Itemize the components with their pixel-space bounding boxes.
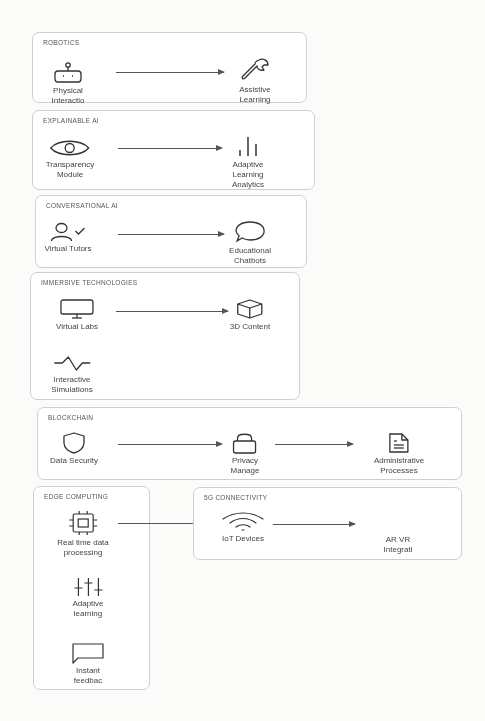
shield-icon <box>62 432 86 454</box>
node-label: Interactive Simulations <box>51 375 92 395</box>
lock-icon <box>231 430 259 454</box>
node-educational-chatbots[interactable]: Educational Chatbots <box>229 220 271 266</box>
node-administrative-processes[interactable]: Administrative Processes <box>374 432 424 476</box>
node-instant-feedback[interactable]: Instant feedbac <box>69 642 107 686</box>
node-label: Virtual Labs <box>56 322 98 332</box>
edge-arrow <box>118 234 224 235</box>
node-label: Data Security <box>50 456 98 466</box>
cube-icon <box>235 298 265 320</box>
node-adaptive-learning[interactable]: Adaptive learning <box>72 577 103 619</box>
wifi-icon <box>220 512 266 532</box>
node-ar-vr-integration[interactable]: AR VR Integrati <box>384 533 413 555</box>
node-assistive-learning[interactable]: Assistive Learning <box>239 57 271 105</box>
node-label: Educational Chatbots <box>229 246 271 266</box>
node-label: 3D Content <box>230 322 270 332</box>
node-label: Transparency Module <box>46 160 95 180</box>
edge-arrow <box>116 311 228 312</box>
edge-arrow <box>116 72 224 73</box>
group-title: EDGE COMPUTING <box>44 493 108 500</box>
node-label: Virtual Tutors <box>45 244 92 254</box>
activity-icon <box>52 355 92 373</box>
edge-arrow <box>273 524 355 525</box>
message-square-icon <box>69 642 107 664</box>
node-label: Adaptive learning <box>72 599 103 619</box>
user-check-icon <box>48 222 88 242</box>
group-title: IMMERSIVE TECHNOLOGIES <box>41 279 137 286</box>
node-label: AR VR Integrati <box>384 535 413 555</box>
node-label: IoT Devices <box>222 534 264 544</box>
wrench-icon <box>239 57 271 83</box>
group-title: BLOCKCHAIN <box>48 414 93 421</box>
node-label: Administrative Processes <box>374 456 424 476</box>
node-virtual-labs[interactable]: Virtual Labs <box>56 298 98 332</box>
node-3d-content[interactable]: 3D Content <box>230 298 270 332</box>
sliders-icon <box>73 577 103 597</box>
node-label: Physical Interactio <box>52 86 85 106</box>
node-real-time-data-processing[interactable]: Real time data processing <box>57 510 109 558</box>
group-title: EXPLAINABLE AI <box>43 117 99 124</box>
chat-bubble-icon <box>234 220 266 244</box>
node-label: Assistive Learning <box>239 85 271 105</box>
group-title: 5G CONNECTIVITY <box>204 494 267 501</box>
node-data-security[interactable]: Data Security <box>50 432 98 466</box>
group-title: ROBOTICS <box>43 39 79 46</box>
node-iot-devices[interactable]: IoT Devices <box>220 512 266 544</box>
edge-arrow <box>275 444 353 445</box>
monitor-icon <box>58 298 96 320</box>
bar-chart-icon <box>235 134 261 158</box>
edge-arrow <box>118 148 222 149</box>
node-label: Instant feedbac <box>74 666 102 686</box>
node-label: Privacy Manage <box>231 456 260 476</box>
node-virtual-tutors[interactable]: Virtual Tutors <box>45 222 92 254</box>
eye-icon <box>49 138 91 158</box>
node-transparency-module[interactable]: Transparency Module <box>46 138 95 180</box>
edge-arrow <box>118 444 222 445</box>
node-privacy-manage[interactable]: Privacy Manage <box>231 430 260 476</box>
node-label: Real time data processing <box>57 538 109 558</box>
document-icon <box>387 432 411 454</box>
cpu-icon <box>65 510 101 536</box>
node-label: Adaptive Learning Analytics <box>232 160 264 190</box>
robot-icon <box>50 62 86 84</box>
node-physical-interaction[interactable]: Physical Interactio <box>50 62 86 106</box>
group-title: CONVERSATIONAL AI <box>46 202 118 209</box>
node-adaptive-learning-analytics[interactable]: Adaptive Learning Analytics <box>232 134 264 190</box>
node-interactive-simulations[interactable]: Interactive Simulations <box>51 355 92 395</box>
